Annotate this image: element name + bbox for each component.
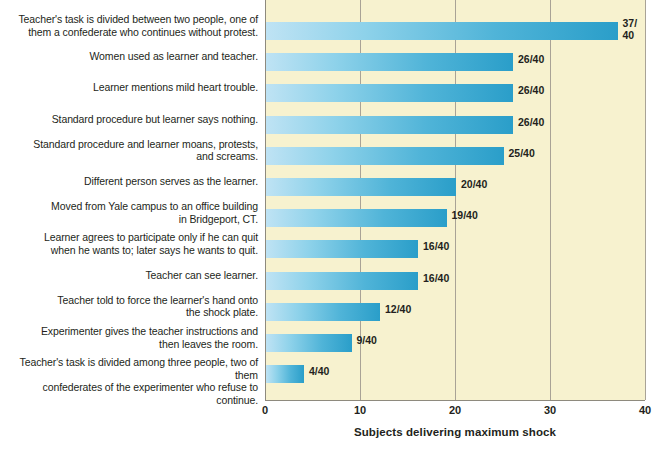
bar-row-label: Teacher's task is divided among three pe…	[0, 356, 258, 406]
bar-value-label: 26/40	[518, 85, 544, 97]
bar-chart: Teacher's task is divided between two pe…	[0, 0, 658, 453]
bar-value-label: 19/40	[452, 210, 478, 222]
bar-row-label: Women used as learner and teacher.	[0, 50, 258, 63]
bar-value-label: 4/40	[309, 366, 329, 378]
bar-row: Different person serves as the learner.2…	[0, 172, 658, 203]
bar	[266, 365, 304, 383]
bar-row: Teacher can see learner.16/40	[0, 266, 658, 297]
x-tick-40: 40	[639, 404, 651, 416]
bar	[266, 240, 418, 258]
bar-value-label: 25/40	[509, 148, 535, 160]
x-tick-10: 10	[354, 404, 366, 416]
x-axis-line	[265, 400, 645, 401]
bar-row-label: Standard procedure but learner says noth…	[0, 113, 258, 126]
bar-value-label: 26/40	[518, 54, 544, 66]
bar-row: Learner agrees to participate only if he…	[0, 234, 658, 265]
bar-row: Teacher told to force the learner's hand…	[0, 297, 658, 328]
bar-row-label: Teacher's task is divided between two pe…	[0, 13, 258, 38]
bar-row-label: Moved from Yale campus to an office buil…	[0, 200, 258, 225]
bar	[266, 178, 456, 196]
bar-value-label: 16/40	[423, 273, 449, 285]
bar-row-label: Different person serves as the learner.	[0, 175, 258, 188]
x-tick-20: 20	[449, 404, 461, 416]
bar-value-label: 16/40	[423, 241, 449, 253]
bar	[266, 84, 513, 102]
bar-row: Standard procedure and learner moans, pr…	[0, 141, 658, 172]
x-tick-30: 30	[544, 404, 556, 416]
bar-row: Standard procedure but learner says noth…	[0, 110, 658, 141]
bar-value-label: 20/40	[461, 179, 487, 191]
bar-row: Learner mentions mild heart trouble.26/4…	[0, 78, 658, 109]
bar-value-label: 9/40	[357, 335, 377, 347]
bar-row: Experimenter gives the teacher instructi…	[0, 328, 658, 359]
bar-value-label: 26/40	[518, 117, 544, 129]
bar	[266, 22, 618, 40]
bar-row: Teacher's task is divided between two pe…	[0, 16, 658, 47]
bar	[266, 303, 380, 321]
bar	[266, 116, 513, 134]
x-axis-title: Subjects delivering maximum shock	[265, 426, 645, 438]
bar-row-label: Learner agrees to participate only if he…	[0, 231, 258, 256]
bar-row-label: Experimenter gives the teacher instructi…	[0, 325, 258, 350]
bar-row-label: Learner mentions mild heart trouble.	[0, 81, 258, 94]
bar	[266, 147, 504, 165]
bar	[266, 209, 447, 227]
bar	[266, 334, 352, 352]
bar-row-label: Teacher told to force the learner's hand…	[0, 294, 258, 319]
bar-row: Teacher's task is divided among three pe…	[0, 359, 658, 390]
bar-row-label: Teacher can see learner.	[0, 269, 258, 282]
bar-row-label: Standard procedure and learner moans, pr…	[0, 138, 258, 163]
x-tick-0: 0	[262, 404, 268, 416]
bar-row: Women used as learner and teacher.26/40	[0, 47, 658, 78]
bar	[266, 53, 513, 71]
bar	[266, 272, 418, 290]
bar-row: Moved from Yale campus to an office buil…	[0, 203, 658, 234]
bar-value-label: 12/40	[385, 304, 411, 316]
bar-value-label: 37/ 40	[623, 18, 638, 41]
